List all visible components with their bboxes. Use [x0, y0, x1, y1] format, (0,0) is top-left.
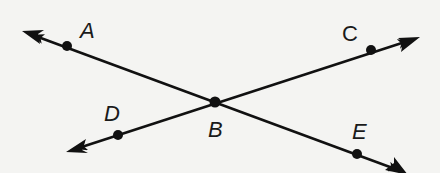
- point-a: [62, 41, 72, 51]
- arrowhead-right-e-icon: [385, 157, 408, 173]
- label-e: E: [352, 119, 367, 144]
- label-c: C: [342, 21, 358, 46]
- point-b: [210, 97, 221, 108]
- point-e: [352, 149, 362, 159]
- point-c: [366, 45, 376, 55]
- label-b: B: [208, 117, 223, 142]
- point-d: [113, 130, 123, 140]
- geometry-diagram: A B C D E: [0, 0, 440, 173]
- label-d: D: [104, 101, 120, 126]
- label-a: A: [78, 18, 95, 43]
